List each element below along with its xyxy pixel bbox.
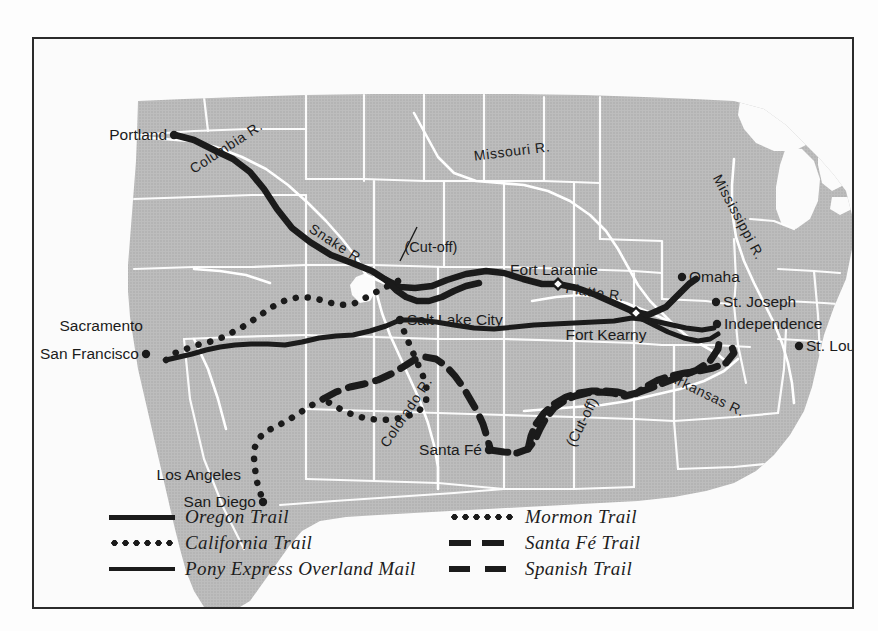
map-frame: PortlandSacramentoSan FranciscoLos Angel… [32, 37, 854, 609]
city-dot [712, 298, 720, 306]
city-dot [396, 316, 404, 324]
city-dot [170, 131, 178, 139]
westward-trails-map-figure: PortlandSacramentoSan FranciscoLos Angel… [0, 0, 878, 631]
city-dot [259, 498, 267, 506]
city-dot [485, 446, 493, 454]
city-dot [142, 350, 150, 358]
city-dot [795, 342, 803, 350]
city-dot [713, 320, 721, 328]
map-canvas [34, 39, 852, 607]
city-dot [678, 273, 686, 281]
